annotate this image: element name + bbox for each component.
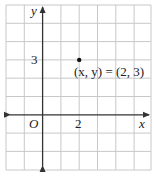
plotted-point bbox=[77, 58, 81, 62]
x-tick-label: 2 bbox=[75, 116, 82, 131]
x-axis-label: x bbox=[138, 116, 145, 131]
origin-label: O bbox=[29, 116, 39, 131]
point-label: (x, y) = (2, 3) bbox=[74, 64, 144, 79]
y-axis-label: y bbox=[29, 3, 37, 18]
grid bbox=[6, 5, 151, 170]
coordinate-plane: y x O 2 3 (x, y) = (2, 3) bbox=[0, 0, 154, 177]
y-tick-label: 3 bbox=[31, 52, 38, 67]
